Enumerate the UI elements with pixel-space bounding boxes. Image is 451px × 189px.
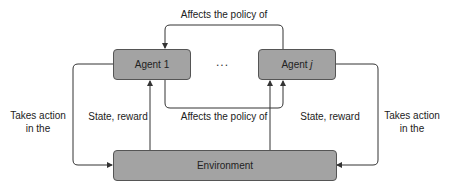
right-state-label: State, reward bbox=[300, 110, 360, 123]
environment-label: Environment bbox=[197, 160, 253, 171]
bottom-policy-label: Affects the policy of bbox=[172, 110, 276, 123]
left-state-label: State, reward bbox=[88, 110, 148, 123]
top-policy-label: Affects the policy of bbox=[172, 8, 276, 21]
agent-j-label-prefix: Agent bbox=[281, 59, 307, 70]
environment-node: Environment bbox=[113, 150, 337, 181]
agent-j-label: Agent j bbox=[281, 59, 312, 70]
agent-j-node: Agent j bbox=[258, 49, 336, 80]
right-action-label-line2: in the bbox=[380, 122, 444, 135]
edge-bottom-policy bbox=[165, 80, 283, 108]
agent-1-node: Agent 1 bbox=[113, 49, 191, 80]
agent-1-label: Agent 1 bbox=[135, 59, 169, 70]
left-action-label: Takes action in the bbox=[8, 109, 68, 135]
ellipsis: ... bbox=[216, 55, 229, 69]
right-action-label: Takes action in the bbox=[380, 109, 444, 135]
agent-j-label-var: j bbox=[310, 59, 312, 70]
edge-top-policy bbox=[165, 25, 283, 49]
right-action-label-line1: Takes action bbox=[380, 109, 444, 122]
left-action-label-line1: Takes action bbox=[8, 109, 68, 122]
left-action-label-line2: in the bbox=[8, 122, 68, 135]
